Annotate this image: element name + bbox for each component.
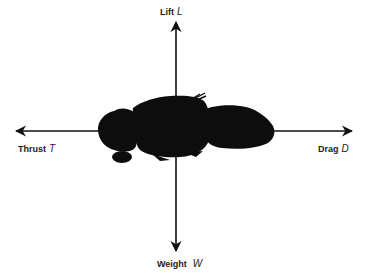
drag-label: DragD bbox=[318, 143, 349, 154]
lift-label: LiftL bbox=[160, 6, 183, 17]
weight-name: Weight bbox=[157, 259, 187, 269]
force-diagram bbox=[0, 0, 368, 273]
thrust-label: ThrustT bbox=[18, 143, 55, 154]
weight-symbol: W bbox=[193, 258, 202, 269]
drag-name: Drag bbox=[318, 144, 339, 154]
drag-symbol: D bbox=[342, 143, 349, 154]
weight-label: WeightW bbox=[157, 258, 202, 269]
lift-symbol: L bbox=[177, 6, 183, 17]
thrust-symbol: T bbox=[49, 143, 55, 154]
fly-silhouette bbox=[98, 93, 274, 163]
lift-name: Lift bbox=[160, 7, 174, 17]
thrust-name: Thrust bbox=[18, 144, 46, 154]
